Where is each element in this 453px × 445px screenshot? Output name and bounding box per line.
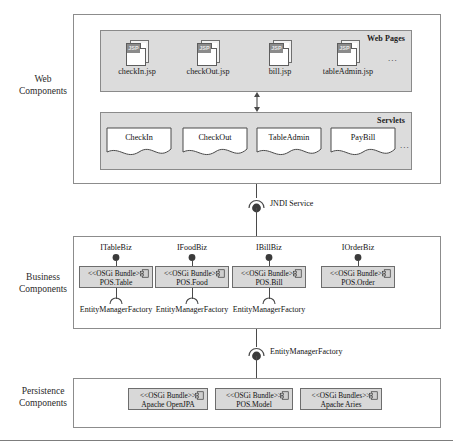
jsp-page-label: tableAdmin.jsp xyxy=(316,67,380,76)
interface-label-ibillbiz: IBillBiz xyxy=(229,243,309,252)
uml-component-diagram: Web Components Business Components Persi… xyxy=(0,0,453,445)
jsp-file-icon: JSP xyxy=(337,40,359,65)
jsp-badge: JSP xyxy=(338,44,351,53)
servlet-label: CheckOut xyxy=(182,133,248,142)
jsp-file-icon: JSP xyxy=(269,40,291,65)
jsp-page-label: checkOut.jsp xyxy=(176,67,240,76)
jsp-page-label: checkIn.jsp xyxy=(105,67,169,76)
jsp-badge: JSP xyxy=(270,44,283,53)
jsp-page-bill[interactable]: JSP bill.jsp xyxy=(248,40,312,76)
component-icon xyxy=(140,269,149,278)
interface-label-iorderbiz: IOrderBiz xyxy=(318,243,398,252)
bundle-pos-order[interactable]: <<OSGi Bundle>> POS.Order xyxy=(321,266,395,288)
required-interface-socket-bill xyxy=(262,296,276,305)
required-interface-label-table: EntityManagerFactory xyxy=(73,305,159,314)
bundle-pos-food[interactable]: <<OSGi Bundle>> POS.Food xyxy=(155,266,229,288)
jsp-page-label: bill.jsp xyxy=(248,67,312,76)
component-icon xyxy=(216,269,225,278)
bundle-name: POS.Table xyxy=(80,278,152,287)
jsp-file-icon: JSP xyxy=(126,40,148,65)
web-pages-ellipsis: ... xyxy=(388,53,398,63)
page-bottom-rule xyxy=(0,440,453,441)
component-icon xyxy=(280,391,289,400)
servlet-label: PayBill xyxy=(330,133,396,142)
interface-label-ifoodbiz: IFoodBiz xyxy=(152,243,232,252)
servlets-ellipsis: ... xyxy=(400,140,410,150)
jsp-badge: JSP xyxy=(198,44,211,53)
bundle-name: POS.Bill xyxy=(233,278,305,287)
servlet-checkout[interactable]: CheckOut xyxy=(182,127,248,157)
jsp-page-checkin[interactable]: JSP checkIn.jsp xyxy=(105,40,169,76)
component-icon xyxy=(369,391,378,400)
servlet-paybill[interactable]: PayBill xyxy=(330,127,396,157)
required-interface-socket-food xyxy=(185,296,199,305)
jsp-page-tableadmin[interactable]: JSP tableAdmin.jsp xyxy=(316,40,380,76)
webpages-servlets-arrow xyxy=(250,92,264,112)
servlet-checkin[interactable]: CheckIn xyxy=(106,127,172,157)
jsp-badge: JSP xyxy=(127,44,140,53)
jsp-page-checkout[interactable]: JSP checkOut.jsp xyxy=(176,40,240,76)
emf-connector-label: EntityManagerFactory xyxy=(270,347,342,356)
emf-connector-line-bottom xyxy=(256,356,257,378)
jndi-service-label: JNDI Service xyxy=(270,199,313,208)
bundle-pos-bill[interactable]: <<OSGi Bundle>> POS.Bill xyxy=(232,266,306,288)
bundle-name: POS.Order xyxy=(322,278,394,287)
servlet-label: TableAdmin xyxy=(256,133,322,142)
jndi-connector-line-bottom xyxy=(256,208,257,236)
servlet-tableadmin[interactable]: TableAdmin xyxy=(256,127,322,157)
required-interface-label-food: EntityManagerFactory xyxy=(149,305,235,314)
required-interface-label-bill: EntityManagerFactory xyxy=(226,305,312,314)
servlet-label: CheckIn xyxy=(106,133,172,142)
bundle-apache-openjpa[interactable]: <<OSGi Bundle>> Apache OpenJPA xyxy=(128,388,208,410)
servlets-title: Servlets xyxy=(377,116,405,125)
component-icon xyxy=(195,391,204,400)
bundle-name: POS.Model xyxy=(216,400,292,409)
bundle-pos-model[interactable]: <<OSGi Bundle>> POS.Model xyxy=(215,388,293,410)
jsp-file-icon: JSP xyxy=(197,40,219,65)
component-icon xyxy=(382,269,391,278)
bundle-name: Apache OpenJPA xyxy=(129,400,207,409)
bundle-pos-table[interactable]: <<OSGi Bundle>> POS.Table xyxy=(79,266,153,288)
bundle-name: POS.Food xyxy=(156,278,228,287)
bundle-apache-aries[interactable]: <<OSGi Bundles>> Apache Aries xyxy=(300,388,382,410)
component-icon xyxy=(293,269,302,278)
required-interface-socket-table xyxy=(109,296,123,305)
interface-label-itablebiz: ITableBiz xyxy=(76,243,156,252)
bundle-name: Apache Aries xyxy=(301,400,381,409)
